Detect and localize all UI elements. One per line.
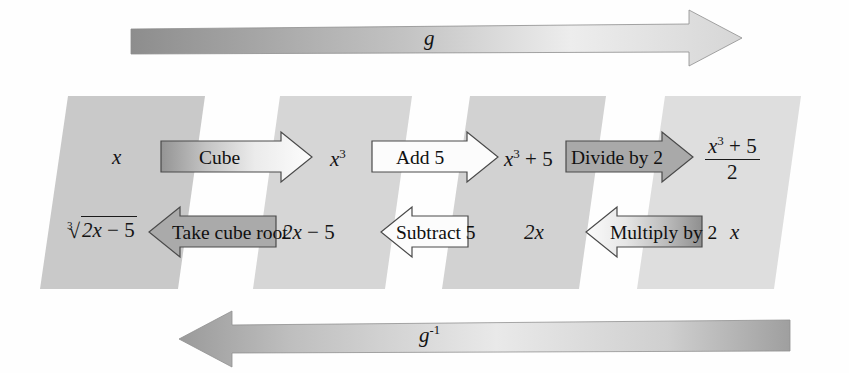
label-multiply2: Multiply by 2 [610,223,717,243]
label-add5: Add 5 [396,148,444,168]
label-subtract5: Subtract 5 [396,223,476,243]
fraction-numerator: x3 + 5 [705,134,760,160]
bottom-arrow-exponent: -1 [430,323,441,337]
panel-3 [442,96,606,289]
panel-1 [40,96,205,289]
radical-sign: √ [69,219,81,243]
label-take-cube-root: Take cube root [172,223,288,243]
bottom-arrow-g-inverse [179,311,790,367]
diagram-vector-layer [0,0,849,373]
top-arrow-g [131,10,742,66]
panel-4 [637,96,801,289]
value-x-cubed-plus-5: x3 + 5 [504,147,553,170]
value-x: x [112,147,121,168]
value-x-cubed: x3 [330,147,346,170]
value-cube-root: 3√2x − 5 [64,219,137,244]
fraction-denominator: 2 [705,160,760,184]
panel-2 [253,96,412,289]
value-2x: 2x [524,222,544,243]
diagram-canvas: g g-1 x x3 x3 + 5 x3 + 5 2 Cube Add 5 Di… [0,0,849,373]
top-arrow-label: g [424,28,435,49]
label-divide2: Divide by 2 [571,148,663,168]
value-2x-minus-5: 2x − 5 [282,222,335,243]
radical-radicand: 2x − 5 [81,216,137,242]
panel-group [40,96,801,289]
value-x-final: x [730,222,739,243]
bottom-arrow-label: g-1 [419,324,440,346]
label-cube: Cube [199,148,240,168]
value-fraction: x3 + 5 2 [705,134,760,183]
